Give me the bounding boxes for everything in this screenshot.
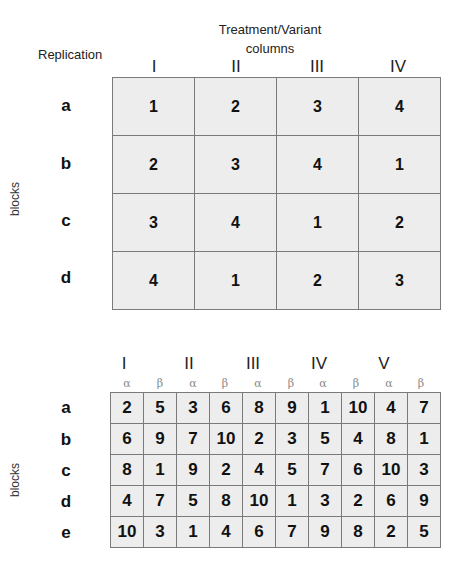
- table-cell: 4: [243, 455, 276, 486]
- table-cell: 1: [309, 393, 342, 424]
- table-cell: 6: [375, 486, 408, 517]
- group-header-1: I: [94, 354, 154, 374]
- table-cell: 1: [144, 455, 177, 486]
- top-title: Treatment/Variant: [200, 22, 340, 37]
- subcolumn-beta: β: [275, 377, 307, 390]
- table-cell: 7: [309, 455, 342, 486]
- table-cell: 3: [408, 455, 441, 486]
- table-cell: 2: [359, 194, 441, 252]
- table-row: 4 7 5 8 10 1 3 2 6 9: [111, 486, 441, 517]
- table-cell: 6: [243, 517, 276, 548]
- row-label-b: b: [51, 430, 81, 450]
- subcolumn-alpha: α: [111, 377, 143, 390]
- table-cell: 2: [243, 424, 276, 455]
- table-cell: 1: [277, 194, 359, 252]
- table-cell: 2: [195, 78, 277, 136]
- table-cell: 8: [111, 455, 144, 486]
- table-cell: 8: [375, 424, 408, 455]
- blocks-label-top: blocks: [8, 174, 22, 224]
- table-row: 8 1 9 2 4 5 7 6 10 3: [111, 455, 441, 486]
- group-header-3: III: [223, 354, 283, 374]
- table-cell: 1: [408, 424, 441, 455]
- table-cell: 10: [111, 517, 144, 548]
- table-cell: 4: [359, 78, 441, 136]
- table-cell: 7: [408, 393, 441, 424]
- table-cell: 7: [177, 424, 210, 455]
- row-label-c: c: [51, 461, 81, 481]
- table-cell: 5: [144, 393, 177, 424]
- table-row: 10 3 1 4 6 7 9 8 2 5: [111, 517, 441, 548]
- table-cell: 1: [177, 517, 210, 548]
- subcolumn-beta: β: [340, 377, 372, 390]
- table-cell: 8: [243, 393, 276, 424]
- table-cell: 2: [375, 517, 408, 548]
- table-cell: 2: [210, 455, 243, 486]
- row-label-d: d: [51, 492, 81, 512]
- subcolumn-alpha: α: [242, 377, 274, 390]
- blocks-label-bottom: blocks: [8, 455, 22, 505]
- column-header-4: IV: [368, 57, 428, 77]
- row-label-e: e: [51, 523, 81, 543]
- table-cell: 6: [111, 424, 144, 455]
- table-cell: 7: [276, 517, 309, 548]
- column-header-2: II: [206, 57, 266, 77]
- row-label-b: b: [51, 154, 81, 174]
- subcolumn-beta: β: [209, 377, 241, 390]
- table-row: 3 4 1 2: [113, 194, 441, 252]
- group-header-2: II: [159, 354, 219, 374]
- table-cell: 4: [277, 136, 359, 194]
- table-cell: 5: [276, 455, 309, 486]
- column-header-3: III: [287, 57, 347, 77]
- table-cell: 10: [375, 455, 408, 486]
- table-cell: 4: [113, 252, 195, 310]
- table-cell: 3: [144, 517, 177, 548]
- latin-square-table: 1 2 3 4 2 3 4 1 3 4 1 2 4 1 2 3: [112, 77, 441, 310]
- table-cell: 2: [111, 393, 144, 424]
- table-cell: 3: [195, 136, 277, 194]
- subcolumn-alpha: α: [177, 377, 209, 390]
- table-cell: 1: [113, 78, 195, 136]
- table-cell: 3: [113, 194, 195, 252]
- table-row: 2 3 4 1: [113, 136, 441, 194]
- row-label-d: d: [51, 268, 81, 288]
- table-cell: 9: [144, 424, 177, 455]
- column-header-1: I: [124, 57, 184, 77]
- table-cell: 5: [309, 424, 342, 455]
- table-cell: 7: [144, 486, 177, 517]
- top-subtitle: columns: [220, 41, 320, 56]
- table-cell: 10: [342, 393, 375, 424]
- row-label-c: c: [51, 211, 81, 231]
- table-cell: 9: [276, 393, 309, 424]
- table-cell: 9: [177, 455, 210, 486]
- table-cell: 2: [113, 136, 195, 194]
- table-cell: 10: [210, 424, 243, 455]
- table-cell: 3: [177, 393, 210, 424]
- subcolumn-beta: β: [405, 377, 437, 390]
- table-cell: 3: [276, 424, 309, 455]
- subcolumn-alpha: α: [307, 377, 339, 390]
- table-cell: 8: [210, 486, 243, 517]
- group-header-4: IV: [289, 354, 349, 374]
- table-cell: 2: [277, 252, 359, 310]
- table-cell: 3: [309, 486, 342, 517]
- table-cell: 6: [210, 393, 243, 424]
- table-cell: 3: [277, 78, 359, 136]
- table-cell: 5: [177, 486, 210, 517]
- table-cell: 2: [342, 486, 375, 517]
- table-cell: 1: [276, 486, 309, 517]
- table-cell: 9: [408, 486, 441, 517]
- table-cell: 4: [210, 517, 243, 548]
- group-header-5: V: [354, 354, 414, 374]
- table-cell: 3: [359, 252, 441, 310]
- table-cell: 4: [195, 194, 277, 252]
- table-cell: 6: [342, 455, 375, 486]
- table-cell: 4: [342, 424, 375, 455]
- table-cell: 4: [375, 393, 408, 424]
- row-label-a: a: [51, 96, 81, 116]
- row-label-a: a: [51, 398, 81, 418]
- subcolumn-alpha: α: [373, 377, 405, 390]
- table-cell: 10: [243, 486, 276, 517]
- table-row: 4 1 2 3: [113, 252, 441, 310]
- table-cell: 9: [309, 517, 342, 548]
- table-row: 6 9 7 10 2 3 5 4 8 1: [111, 424, 441, 455]
